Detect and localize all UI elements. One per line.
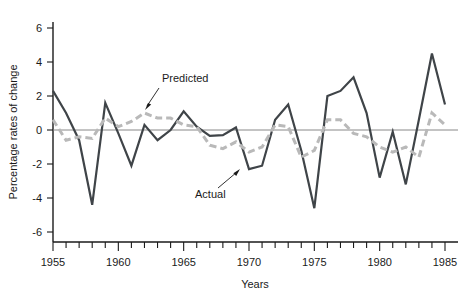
y-tick-label: 6 (36, 22, 42, 34)
x-axis-ticks: 1955196019651970197519801985 (41, 242, 457, 268)
x-tick-label: 1960 (106, 256, 130, 268)
data-series-layer (53, 54, 445, 209)
annotation-actual: Actual (195, 169, 240, 200)
predicted-leader-line (147, 88, 159, 106)
x-tick-label: 1985 (433, 256, 457, 268)
x-tick-label: 1980 (367, 256, 391, 268)
y-tick-label: 0 (36, 124, 42, 136)
y-tick-label: 4 (36, 56, 42, 68)
chart-container: 6420-2-4-6 1955196019651970197519801985 … (0, 0, 466, 300)
actual-series-label: Actual (195, 188, 226, 200)
y-tick-label: -4 (32, 192, 42, 204)
y-axis-title: Percentage rates of change (7, 64, 19, 199)
actual-arrow-icon (233, 169, 240, 176)
x-tick-label: 1975 (302, 256, 326, 268)
predicted-arrow-icon (145, 103, 151, 110)
predicted-series-label: Predicted (162, 72, 208, 84)
x-tick-label: 1955 (41, 256, 65, 268)
y-tick-label: -2 (32, 158, 42, 170)
y-axis-ticks: 6420-2-4-6 (32, 22, 53, 238)
x-axis-title: Years (241, 278, 269, 290)
x-tick-label: 1965 (171, 256, 195, 268)
y-tick-label: 2 (36, 90, 42, 102)
y-tick-label: -6 (32, 226, 42, 238)
series-line-actual (53, 54, 445, 209)
line-chart: 6420-2-4-6 1955196019651970197519801985 … (0, 0, 466, 300)
x-tick-label: 1970 (237, 256, 261, 268)
actual-leader-line (218, 172, 237, 188)
annotation-predicted: Predicted (145, 72, 208, 110)
